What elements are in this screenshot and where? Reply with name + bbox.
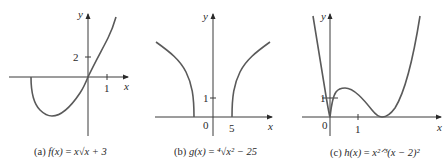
caption-prefix: (a) [34, 146, 46, 157]
caption-b: (b) g(x) = ⁴√x² − 25 [174, 146, 257, 157]
function-name: f(x) [48, 146, 63, 157]
y-tick-label: 1 [320, 92, 326, 104]
x-tick-label: 1 [355, 123, 361, 135]
labels-layer: y x 1 2 y x 5 0 1 y x 1 0 1 [0, 0, 446, 168]
function-expression: ⁴√x² − 25 [217, 146, 257, 157]
caption-c: (c) h(x) = x²ᐟ³(x − 2)² [330, 146, 420, 158]
caption-a: (a) f(x) = x√x + 3 [34, 146, 107, 157]
x-tick-label: 1 [104, 82, 110, 94]
function-expression: x√x + 3 [74, 146, 107, 157]
y-axis-label: y [320, 10, 326, 22]
y-tick-label: 1 [203, 92, 209, 104]
x-axis-label: x [123, 80, 129, 92]
x-axis-label: x [267, 120, 273, 132]
function-expression: x²ᐟ³(x − 2)² [372, 147, 419, 158]
function-name: g(x) [189, 146, 206, 157]
y-axis-label: y [202, 10, 208, 22]
caption-prefix: (c) [330, 147, 342, 158]
y-tick-label: 2 [73, 51, 79, 63]
function-name: h(x) [344, 147, 361, 158]
origin-label: 0 [322, 119, 328, 131]
x-tick-label: 5 [229, 122, 235, 134]
caption-prefix: (b) [174, 146, 186, 157]
y-axis-label: y [77, 8, 83, 20]
x-axis-label: x [436, 121, 442, 133]
origin-label: 0 [203, 119, 209, 131]
